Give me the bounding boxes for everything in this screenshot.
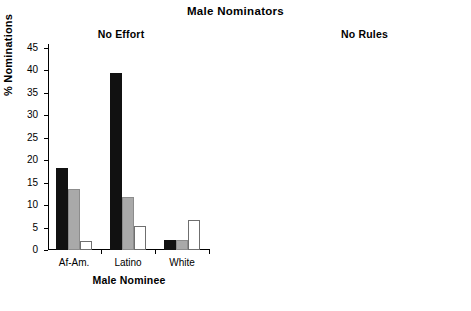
y-tick: 30 — [44, 115, 48, 116]
bar-latino-gray — [122, 197, 134, 250]
y-axis-line-left — [48, 44, 49, 250]
bar-afam-black — [56, 168, 68, 250]
bar-afam-white — [80, 241, 92, 250]
x-axis-title-left: Male Nominee — [48, 274, 210, 286]
y-tick-label: 30 — [18, 108, 38, 121]
y-tick: 40 — [44, 70, 48, 71]
y-tick: 15 — [44, 183, 48, 184]
y-tick: 10 — [44, 205, 48, 206]
figure: Male Nominators % Nominations No Effort … — [0, 0, 471, 311]
plot-area-left: Male Nominee 051015202530354045Af-Am.Lat… — [48, 48, 210, 250]
x-group-label: Latino — [114, 257, 141, 268]
y-tick-label: 35 — [18, 86, 38, 99]
bar-afam-gray — [68, 189, 80, 250]
panel-subtitle-right: No Rules — [232, 28, 471, 40]
bar-white-white — [188, 220, 200, 250]
y-tick-label: 45 — [18, 41, 38, 54]
y-tick: 45 — [44, 48, 48, 49]
y-tick-label: 5 — [18, 221, 38, 234]
bar-white-black — [164, 240, 176, 250]
panel-no-effort: No Effort Male Nominee 05101520253035404… — [0, 0, 232, 311]
panel-no-rules: No Rules Male Nominee 051015202530354045… — [232, 0, 471, 311]
bar-latino-black — [110, 73, 122, 250]
y-tick-label: 25 — [18, 131, 38, 144]
y-tick: 0 — [44, 250, 48, 251]
x-group-label: White — [169, 257, 195, 268]
y-tick-label: 0 — [18, 243, 38, 256]
y-tick: 20 — [44, 160, 48, 161]
x-tick — [155, 250, 156, 254]
x-group-label: Af-Am. — [59, 257, 90, 268]
y-tick-label: 15 — [18, 176, 38, 189]
y-tick: 35 — [44, 93, 48, 94]
bar-white-gray — [176, 240, 188, 250]
y-tick: 5 — [44, 228, 48, 229]
y-tick-label: 10 — [18, 198, 38, 211]
y-tick-label: 40 — [18, 63, 38, 76]
y-tick: 25 — [44, 138, 48, 139]
x-tick — [101, 250, 102, 254]
bar-latino-white — [134, 226, 146, 250]
y-tick-label: 20 — [18, 153, 38, 166]
x-tick — [209, 250, 210, 254]
panel-subtitle-left: No Effort — [0, 28, 232, 40]
